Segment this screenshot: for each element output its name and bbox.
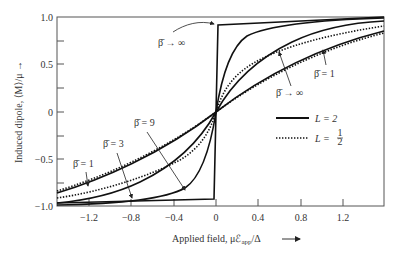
annotation-arrow: [147, 132, 185, 190]
legend: L = 2 L = 1 2: [276, 113, 343, 147]
y-tick-label: 0: [48, 107, 53, 118]
x-tick-label: 0.8: [295, 212, 308, 223]
annotation-beta-inf-mid: β̄ → ∞: [276, 87, 303, 98]
annotation-beta-9: β̄ = 9: [134, 117, 155, 128]
annotation-beta-1-left: β̄ = 1: [73, 158, 94, 169]
x-axis-title-main: Applied field, μℰ: [172, 233, 241, 244]
svg-text:2: 2: [338, 136, 343, 147]
legend-label-lhalf: L =: [314, 133, 330, 144]
annotation-beta-1-right: β̄ = 1: [314, 68, 335, 79]
y-tick-label: 1.0: [41, 12, 54, 23]
x-tick-label: −0.4: [165, 212, 183, 223]
curve-l2-beta-1: [57, 31, 384, 193]
annotation-arrow: [279, 52, 291, 86]
y-axis-title: Induced dipole, ⟨M⟩/μ →: [13, 61, 24, 163]
x-axis-title-sub: app: [241, 238, 252, 246]
x-tick-label: 0: [214, 212, 219, 223]
y-axis-ticks: [57, 41, 64, 183]
chart: 1.0 0.5 0 −0.5 −1.0 −1.2 −0.8 −0.4 0 0.4…: [0, 0, 396, 254]
x-tick-label: 0.4: [252, 212, 265, 223]
annotations: β̄ → ∞ β̄ = 1 β̄ → ∞ β̄ = 9 β̄ = 3 β̄ = …: [73, 22, 335, 198]
x-tick-label: 1.2: [337, 212, 350, 223]
y-tick-label: −0.5: [35, 154, 53, 165]
curve-lhalf-beta-1: [57, 33, 384, 191]
annotation-beta-3: β̄ = 3: [103, 138, 124, 149]
x-axis-ticks: [89, 199, 343, 206]
y-tick-label: 0.5: [41, 59, 54, 70]
y-tick-label: −1.0: [35, 201, 53, 212]
fraction-one-half: 1 2: [337, 127, 343, 147]
curve-lhalf-beta-3: [57, 26, 384, 198]
x-axis-title-tail: /Δ: [252, 233, 262, 244]
annotation-beta-inf-top: β̄ → ∞: [158, 37, 185, 48]
x-axis-title: Applied field, μℰapp/Δ: [172, 233, 261, 246]
legend-label-l2: L = 2: [314, 113, 337, 124]
x-tick-label: −0.8: [122, 212, 140, 223]
x-tick-label: −1.2: [80, 212, 98, 223]
curves: [57, 17, 384, 205]
annotation-arrow: [173, 22, 214, 32]
